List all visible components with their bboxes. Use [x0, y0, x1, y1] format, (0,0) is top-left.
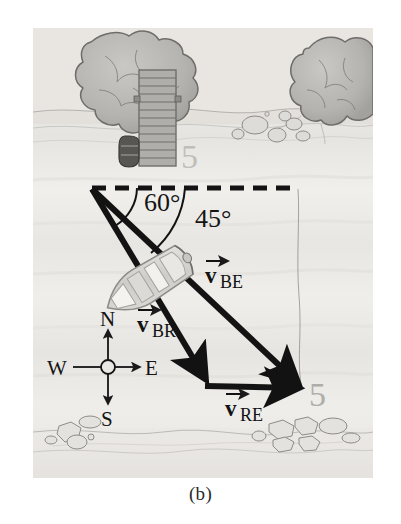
- scene-svg: 5: [33, 28, 373, 478]
- figure-panel: 5: [0, 0, 401, 524]
- vector-vre-line: [205, 386, 297, 388]
- label-vbr-subscript: BR: [152, 321, 176, 341]
- figure-caption: (b): [0, 483, 401, 505]
- compass-label-north: N: [100, 307, 115, 331]
- label-vbr-symbol: v: [137, 312, 149, 337]
- watermark-bottom: 5: [309, 376, 326, 413]
- label-vre-symbol: v: [225, 396, 237, 421]
- label-vre-subscript: RE: [240, 405, 263, 425]
- bottom-bank: [33, 428, 373, 478]
- compass-label-south: S: [101, 407, 113, 431]
- label-vbe-symbol: v: [205, 263, 217, 288]
- river-scene: 5: [33, 28, 373, 478]
- compass-label-west: W: [47, 356, 67, 380]
- label-angle-45: 45°: [195, 204, 231, 233]
- dock-post: [119, 136, 139, 167]
- compass-label-east: E: [145, 356, 158, 380]
- label-vbe-subscript: BE: [220, 272, 243, 292]
- label-angle-60: 60°: [144, 188, 180, 217]
- watermark-top: 5: [181, 138, 198, 175]
